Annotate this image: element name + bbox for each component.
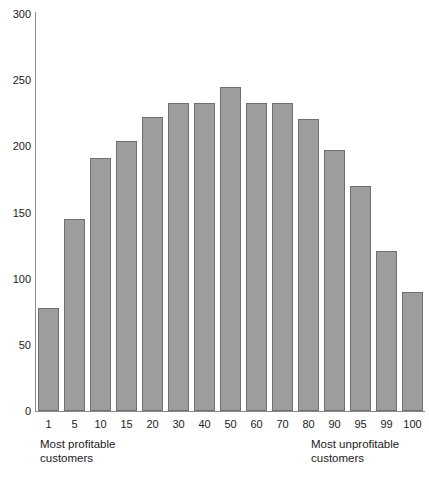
x-tick-label: 10 bbox=[90, 418, 111, 430]
bar-slot bbox=[298, 14, 319, 411]
bar-slot bbox=[142, 14, 163, 411]
bar-slot bbox=[324, 14, 345, 411]
y-tick-label: 250 bbox=[1, 75, 31, 86]
bar-slot bbox=[376, 14, 397, 411]
x-tick-label: 30 bbox=[168, 418, 189, 430]
x-tick-label: 50 bbox=[220, 418, 241, 430]
x-tick-label: 100 bbox=[402, 418, 423, 430]
bar-slot bbox=[246, 14, 267, 411]
bar bbox=[38, 308, 59, 411]
bar bbox=[298, 119, 319, 411]
x-tick-label: 80 bbox=[298, 418, 319, 430]
bar bbox=[116, 141, 137, 411]
y-tick-label: 50 bbox=[1, 339, 31, 350]
x-tick-label: 20 bbox=[142, 418, 163, 430]
bar-series: 15101520304050607080909599100 bbox=[35, 14, 425, 411]
bar-slot bbox=[90, 14, 111, 411]
right-caption-line2: customers bbox=[311, 451, 399, 465]
bar-slot bbox=[38, 14, 59, 411]
x-tick-label: 5 bbox=[64, 418, 85, 430]
bar bbox=[220, 87, 241, 411]
bar bbox=[272, 103, 293, 411]
bar bbox=[168, 103, 189, 411]
y-tick-label: 200 bbox=[1, 141, 31, 152]
x-tick-label: 1 bbox=[38, 418, 59, 430]
left-caption-line2: customers bbox=[40, 451, 115, 465]
x-tick-label: 60 bbox=[246, 418, 267, 430]
bar bbox=[324, 150, 345, 411]
bar-slot bbox=[350, 14, 371, 411]
y-axis-tick-labels: 050100150200250300 bbox=[0, 0, 31, 477]
bar-slot bbox=[272, 14, 293, 411]
y-tick-label: 0 bbox=[1, 406, 31, 417]
bar bbox=[350, 186, 371, 411]
bar bbox=[376, 251, 397, 411]
y-tick-label: 300 bbox=[1, 9, 31, 20]
right-caption-line1: Most unprofitable bbox=[311, 437, 399, 451]
bar-slot bbox=[64, 14, 85, 411]
x-tick-label: 95 bbox=[350, 418, 371, 430]
bar-chart: 050100150200250300 151015203040506070809… bbox=[0, 0, 429, 477]
right-caption: Most unprofitable customers bbox=[311, 437, 399, 465]
bar-slot bbox=[402, 14, 423, 411]
plot-area: 15101520304050607080909599100 bbox=[35, 14, 425, 411]
x-tick-label: 90 bbox=[324, 418, 345, 430]
x-tick-label: 15 bbox=[116, 418, 137, 430]
y-tick-label: 100 bbox=[1, 273, 31, 284]
x-tick-label: 99 bbox=[376, 418, 397, 430]
bar bbox=[246, 103, 267, 411]
bar-slot bbox=[194, 14, 215, 411]
left-caption-line1: Most profitable bbox=[40, 437, 115, 451]
x-tick-label: 40 bbox=[194, 418, 215, 430]
x-axis-line bbox=[35, 411, 425, 412]
y-tick-label: 150 bbox=[1, 207, 31, 218]
bar-slot bbox=[220, 14, 241, 411]
bar bbox=[90, 158, 111, 411]
bar bbox=[64, 219, 85, 411]
bar bbox=[402, 292, 423, 411]
bar bbox=[194, 103, 215, 411]
x-tick-label: 70 bbox=[272, 418, 293, 430]
bar bbox=[142, 117, 163, 411]
bar-slot bbox=[168, 14, 189, 411]
left-caption: Most profitable customers bbox=[40, 437, 115, 465]
bar-slot bbox=[116, 14, 137, 411]
